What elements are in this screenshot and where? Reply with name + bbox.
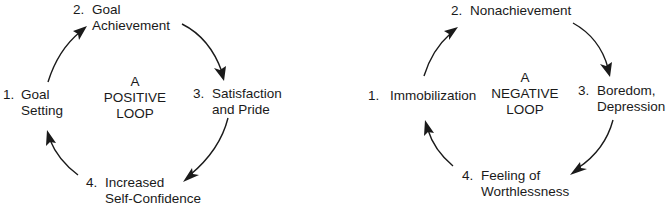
step-1-label: 1.Immobilization [368,88,476,104]
step-3-label: 3.Boredom, Depression [578,83,665,115]
step-4-label: 4.Feeling of Worthlessness [462,168,569,200]
arrow-1-to-2 [48,32,80,82]
arrowhead-icon [600,62,612,77]
arrow-2-to-3 [182,24,222,72]
step-2-label: 2.Goal Achievement [73,2,170,34]
negative-loop-diagram: 1.Immobilization 2.Nonachievement 3.Bore… [360,0,670,213]
arrow-3-to-4 [190,118,228,175]
arrow-3-to-4 [578,120,613,168]
step-3-label: 3.Satisfaction and Pride [193,86,282,118]
arrow-1-to-2 [424,34,450,76]
step-2-label: 2.Nonachievement [451,3,571,19]
arrow-4-to-1 [50,140,78,175]
center-label: A POSITIVE LOOP [100,74,170,122]
arrow-4-to-1 [428,130,453,166]
arrow-2-to-3 [573,23,608,68]
positive-loop-diagram: 1.Goal Setting 2.Goal Achievement 3.Sati… [0,0,330,213]
step-4-label: 4.Increased Self-Confidence [86,175,201,207]
center-label: A NEGATIVE LOOP [485,70,565,118]
step-1-label: 1.Goal Setting [3,87,63,119]
